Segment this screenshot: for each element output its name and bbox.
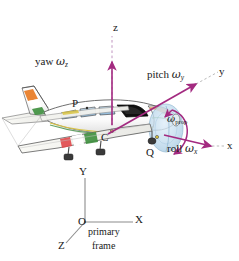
prop-subscript: prop: [175, 118, 187, 125]
roll-subscript: x: [194, 147, 197, 156]
pitch-label: pitch ωy: [147, 69, 184, 82]
roll-label: roll ωx: [167, 143, 197, 156]
yaw-word: yaw: [35, 55, 53, 67]
yaw-subscript: z: [65, 60, 68, 69]
yaw-omega-symbol: ω: [56, 55, 65, 68]
point-q-label: Q: [146, 147, 154, 158]
roll-omega-symbol: ω: [185, 142, 194, 155]
point-c-label: C: [101, 132, 108, 143]
y-axis-label: y: [219, 66, 225, 77]
x-axis-label: x: [227, 140, 233, 151]
z-axis-label: z: [113, 22, 118, 33]
primary-origin-label: O: [78, 216, 86, 227]
aircraft-rotation-axes-figure: yaw ωz z pitch ωy y ωprop roll ωx x P C …: [0, 0, 239, 261]
primary-x-axis-label: X: [135, 214, 143, 225]
roll-word: roll: [167, 142, 182, 154]
primary-frame-caption-line2: frame: [92, 241, 115, 251]
point-p-label: P: [72, 98, 78, 109]
primary-z-axis-label: Z: [58, 240, 65, 251]
primary-y-axis-label: Y: [79, 166, 87, 177]
prop-omega-symbol: ω: [167, 113, 175, 124]
primary-frame-axes: [0, 0, 239, 261]
pitch-subscript: y: [181, 73, 184, 82]
pitch-omega-symbol: ω: [172, 68, 181, 81]
pitch-word: pitch: [147, 68, 169, 80]
primary-frame-caption-line1: primary: [88, 227, 120, 237]
prop-omega-label: ωprop: [167, 114, 187, 125]
yaw-label: yaw ωz: [35, 56, 68, 69]
